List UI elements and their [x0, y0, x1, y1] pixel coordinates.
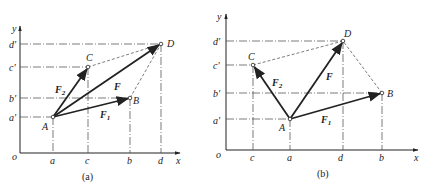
- origin-label: o: [12, 151, 17, 162]
- y-tick-c-prime: c': [9, 62, 16, 73]
- y-tick-d-prime: d': [213, 36, 221, 47]
- panel-a: A C B D F2 F F1 y x o a' b' c' d' a c b …: [9, 23, 181, 183]
- point-label-d: D: [166, 38, 175, 49]
- x-axis-label: x: [413, 152, 419, 163]
- vector-f: [290, 43, 342, 119]
- point-label-a: A: [278, 122, 286, 133]
- y-tick-a-prime: a': [213, 115, 221, 126]
- x-tick-c: c: [250, 152, 255, 163]
- vector-f1: [290, 94, 380, 120]
- vector-diagram: A C B D F2 F F1 y x o a' b' c' d' a c b …: [0, 0, 422, 190]
- y-axis-label: y: [216, 11, 222, 22]
- vector-label-f: F: [325, 71, 333, 82]
- point-label-c: C: [86, 52, 93, 63]
- y-tick-b-prime: b': [9, 93, 17, 104]
- vector-f: [53, 45, 159, 117]
- x-axis-label: x: [175, 155, 181, 166]
- vector-label-f2: F2: [271, 77, 283, 90]
- y-tick-d-prime: d': [9, 39, 17, 50]
- y-tick-a-prime: a': [9, 112, 17, 123]
- x-tick-d: d: [338, 152, 344, 163]
- x-tick-a: a: [50, 155, 55, 166]
- point-label-b: B: [133, 95, 139, 106]
- point-label-c: C: [248, 51, 255, 62]
- x-tick-d: d: [158, 155, 164, 166]
- panel-b: A C B D F2 F F1 y x o a' b' c' d' c a d …: [213, 11, 419, 180]
- vector-label-f: F: [113, 81, 121, 92]
- caption-a: (a): [82, 171, 93, 183]
- point-label-b: B: [387, 88, 393, 99]
- x-tick-b: b: [127, 155, 132, 166]
- vector-label-f2: F2: [54, 84, 66, 97]
- caption-b: (b): [317, 168, 329, 180]
- y-tick-b-prime: b': [213, 88, 221, 99]
- y-tick-c-prime: c': [213, 60, 220, 71]
- vector-label-f1: F1: [99, 109, 110, 122]
- x-tick-c: c: [85, 155, 90, 166]
- point-label-a: A: [41, 121, 49, 132]
- y-axis-label: y: [11, 23, 17, 34]
- x-tick-b: b: [379, 152, 384, 163]
- origin-label: o: [216, 149, 221, 160]
- x-tick-a: a: [287, 152, 292, 163]
- point-label-d: D: [343, 28, 352, 39]
- vector-label-f1: F1: [320, 114, 331, 127]
